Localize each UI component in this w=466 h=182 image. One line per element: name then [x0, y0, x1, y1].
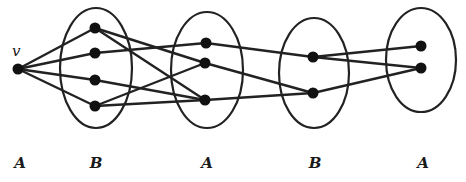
node-c2: [308, 88, 319, 99]
node-b1: [90, 23, 101, 34]
node-v: [13, 64, 24, 75]
graph-edges: [18, 28, 421, 106]
node-d2: [416, 63, 427, 74]
edge-a3-c2: [205, 93, 313, 100]
group-label-1: B: [89, 154, 103, 172]
group-label-3: B: [308, 154, 322, 172]
group-labels: ABABA: [12, 154, 429, 172]
vertex-label-v: v: [12, 42, 21, 60]
layered-graph-diagram: v ABABA: [0, 0, 466, 182]
edge-a2-c2: [205, 63, 313, 93]
group-ellipse-B3: [279, 18, 349, 128]
group-label-2: A: [199, 154, 213, 172]
edge-v-b1: [18, 28, 95, 69]
node-a2: [200, 58, 211, 69]
group-ellipse-A4: [386, 8, 456, 112]
node-a1: [201, 38, 212, 49]
node-b3: [90, 75, 101, 86]
group-label-4: A: [415, 154, 429, 172]
edge-c1-d1: [313, 46, 421, 57]
node-b2: [90, 48, 101, 59]
edge-c1-d2: [313, 57, 421, 68]
node-b4: [90, 101, 101, 112]
edge-c2-d2: [313, 68, 421, 93]
node-a3: [200, 95, 211, 106]
edge-a1-c1: [206, 43, 313, 57]
node-d1: [416, 41, 427, 52]
node-c1: [308, 52, 319, 63]
edge-b4-a3: [95, 100, 205, 106]
edge-b4-a2: [95, 63, 205, 106]
group-ellipses: [60, 8, 456, 128]
group-label-0: A: [12, 154, 26, 172]
edge-v-b2: [18, 53, 95, 69]
